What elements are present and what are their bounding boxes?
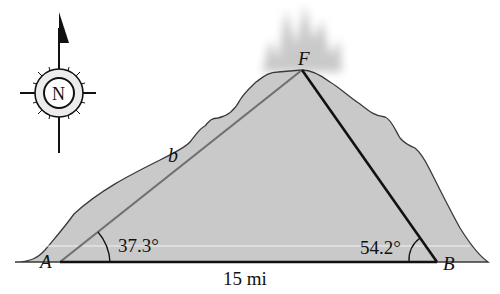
angle-label-a: 37.3° — [118, 235, 159, 256]
compass-north-label: N — [52, 84, 65, 104]
vertex-label-b: B — [443, 253, 455, 274]
vertex-label-a: A — [38, 251, 52, 272]
angle-label-b: 54.2° — [360, 237, 401, 258]
compass-icon: N — [20, 12, 96, 153]
vertex-label-f: F — [297, 48, 310, 69]
triangle-diagram: A B F b 37.3° 54.2° 15 mi N — [0, 0, 500, 294]
side-label-ab: 15 mi — [223, 268, 267, 289]
side-label-b: b — [168, 144, 178, 166]
